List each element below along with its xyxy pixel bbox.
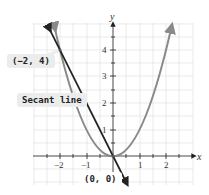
tick-y-2: 2 [102,98,107,108]
tick-y-1: 1 [102,125,107,135]
x-axis-label: x [196,151,202,162]
point-b [112,155,115,158]
point-b-label: (0, 0) [79,172,122,186]
secant-line-label: Secant line [17,93,87,107]
y-axis-label: y [109,11,115,22]
tick-x-m2: −2 [54,160,64,170]
tick-y-4: 4 [102,45,107,55]
tick-y-3: 3 [102,71,107,81]
point-a [59,49,62,52]
tick-x-2: 2 [164,160,169,170]
tick-x-m1: −1 [81,160,91,170]
tick-x-1: 1 [138,160,143,170]
point-a-label: (−2, 4) [7,54,55,68]
